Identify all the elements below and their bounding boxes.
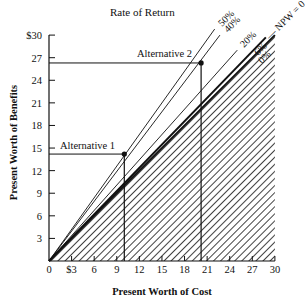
x-tick-label: 30 bbox=[270, 264, 281, 275]
x-tick-label: 12 bbox=[134, 264, 145, 275]
y-tick-label: 6 bbox=[37, 211, 42, 222]
alternative-point bbox=[122, 151, 127, 156]
y-tick-label: 24 bbox=[32, 75, 43, 86]
x-tick-label: 0 bbox=[46, 264, 51, 275]
plot-area: 0$36912151821242730369121518212427$3050%… bbox=[26, 0, 307, 275]
y-tick-label: $30 bbox=[26, 30, 42, 41]
y-tick-label: 27 bbox=[32, 53, 43, 64]
x-tick-label: 27 bbox=[247, 264, 258, 275]
x-tick-label: 15 bbox=[157, 264, 168, 275]
y-tick-label: 9 bbox=[37, 188, 42, 199]
x-tick-label: 24 bbox=[224, 264, 235, 275]
y-tick-label: 18 bbox=[32, 120, 43, 131]
y-tick-label: 12 bbox=[32, 166, 43, 177]
x-tick-label: 9 bbox=[114, 264, 119, 275]
x-tick-label: $3 bbox=[66, 264, 77, 275]
alternative-point bbox=[199, 60, 204, 65]
x-tick-label: 6 bbox=[92, 264, 97, 275]
x-tick-label: 18 bbox=[179, 264, 190, 275]
chart-plot: 0$36912151821242730369121518212427$3050%… bbox=[0, 0, 307, 304]
y-tick-label: 21 bbox=[32, 98, 43, 109]
rate-label: — NPW = 0 bbox=[263, 0, 307, 42]
y-tick-label: 15 bbox=[32, 143, 43, 154]
x-tick-label: 21 bbox=[202, 264, 213, 275]
y-tick-label: 3 bbox=[37, 233, 42, 244]
